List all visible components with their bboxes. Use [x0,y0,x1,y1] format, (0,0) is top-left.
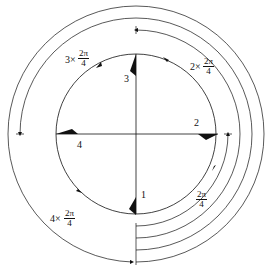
arc-1x [136,134,228,226]
marker-1 [129,197,136,215]
arc-label-1x: 2π 4 [196,190,207,209]
arc-label-2x-prefix: 2× [190,62,201,72]
arc-label-3x: 2π 4 [78,49,89,68]
marker-2 [198,134,218,140]
rotation-diagram [0,0,273,268]
marker-3 [130,54,136,76]
arc-label-3x-prefix: 3× [65,55,76,65]
marker-label-2: 2 [194,118,199,128]
marker-4 [56,129,78,134]
marker-label-1: 1 [141,190,146,200]
marker-label-4: 4 [77,140,82,150]
arc-label-2x: 2π 4 [203,57,214,76]
arc-label-4x: 2π 4 [64,209,75,228]
arc-label-4x-prefix: 4× [50,214,61,224]
marker-label-3: 3 [124,74,129,84]
